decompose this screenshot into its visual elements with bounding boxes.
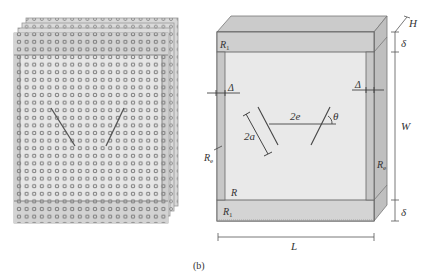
bottom-band <box>217 200 374 221</box>
label-Re-left: Re <box>203 152 213 165</box>
stacked-plates <box>14 18 178 223</box>
plate-front <box>14 33 168 223</box>
figure-canvas: H δ W δ L R1 R1 Re Re R Δ Δ 2a 2e θ (b) <box>0 0 425 278</box>
right-strip <box>366 52 374 200</box>
vertical-dimension <box>391 32 399 221</box>
label-W: W <box>401 120 411 132</box>
figure-caption: (b) <box>193 260 205 272</box>
block-side-face <box>374 16 387 221</box>
label-2e: 2e <box>290 110 301 122</box>
block-front-face <box>217 32 374 221</box>
depth-dimension-H <box>395 16 410 32</box>
label-L: L <box>290 240 297 252</box>
label-delta-right: Δ <box>354 79 361 90</box>
label-theta: θ <box>333 110 339 122</box>
top-band <box>217 32 374 52</box>
schematic-block <box>207 16 410 241</box>
label-delta-left: Δ <box>227 82 234 93</box>
block-top-face <box>217 16 387 32</box>
label-delta-top: δ <box>401 37 407 49</box>
left-strip <box>217 52 225 200</box>
label-delta-bottom: δ <box>401 206 407 218</box>
label-H: H <box>408 17 418 29</box>
label-R: R <box>230 187 237 198</box>
label-2a: 2a <box>244 130 256 142</box>
